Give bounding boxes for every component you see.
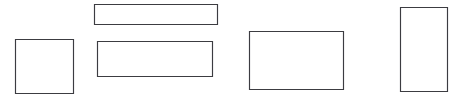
thin-horizontal-bar-outline[interactable]	[95, 5, 218, 25]
square-outline[interactable]	[16, 40, 74, 94]
portrait-rectangle-outline[interactable]	[401, 8, 448, 92]
landscape-rectangle-outline[interactable]	[250, 32, 344, 90]
shape-layer	[0, 0, 459, 100]
drawing-canvas	[0, 0, 459, 100]
wide-horizontal-rectangle-outline[interactable]	[98, 42, 213, 77]
